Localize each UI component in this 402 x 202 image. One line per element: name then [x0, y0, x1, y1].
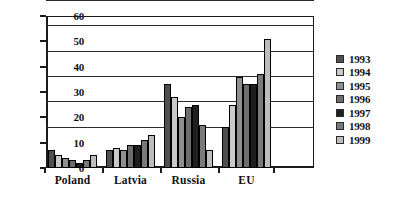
x-axis-tick-mark — [44, 168, 46, 173]
bar — [257, 74, 264, 168]
legend-swatch-icon — [336, 136, 344, 144]
bar — [164, 84, 171, 168]
legend-item[interactable]: 1995 — [336, 79, 400, 92]
bar — [134, 145, 141, 168]
legend-label: 1995 — [349, 80, 370, 92]
bar — [185, 107, 192, 168]
bar-group — [222, 16, 271, 168]
gridline — [46, 0, 314, 1]
bar — [127, 145, 134, 168]
bar — [171, 97, 178, 168]
x-axis-category-label: Latvia — [114, 174, 147, 186]
bar — [229, 105, 236, 168]
bar — [250, 84, 257, 168]
bar-group — [48, 16, 97, 168]
y-axis-tick-mark — [40, 40, 46, 42]
bar — [264, 39, 271, 168]
legend-item[interactable]: 1996 — [336, 93, 400, 106]
x-axis-tick-mark — [160, 168, 162, 173]
x-axis-category-label: Russia — [172, 174, 206, 186]
bar — [141, 140, 148, 168]
bar-group — [106, 16, 155, 168]
x-axis-tick-mark — [218, 168, 220, 173]
bar — [206, 150, 213, 168]
legend-item[interactable]: 1999 — [336, 133, 400, 146]
x-axis-tick-mark — [102, 168, 104, 173]
legend-swatch-icon — [336, 68, 344, 76]
legend-label: 1994 — [349, 66, 370, 78]
y-axis-tick-mark — [40, 15, 46, 17]
legend-swatch-icon — [336, 55, 344, 63]
legend-item[interactable]: 1997 — [336, 106, 400, 119]
x-axis-category-label: Poland — [55, 174, 91, 186]
bar — [113, 148, 120, 168]
bar — [178, 117, 185, 168]
legend-label: 1998 — [349, 120, 370, 132]
bar — [76, 163, 83, 168]
bar — [62, 158, 69, 168]
bar — [106, 150, 113, 168]
legend-item[interactable]: 1993 — [336, 52, 400, 65]
legend-swatch-icon — [336, 122, 344, 130]
legend-label: 1999 — [349, 134, 370, 146]
legend-label: 1997 — [349, 107, 370, 119]
x-axis-tick-mark — [273, 168, 275, 173]
bar — [55, 155, 62, 168]
legend-swatch-icon — [336, 95, 344, 103]
bar — [199, 125, 206, 168]
bar — [48, 150, 55, 168]
bars-layer — [48, 16, 314, 168]
legend-label: 1996 — [349, 93, 370, 105]
bar — [222, 127, 229, 168]
bar — [120, 150, 127, 168]
group-gap — [213, 16, 222, 168]
bar-chart: 0102030405060 PolandLatviaRussiaEU 19931… — [0, 0, 402, 202]
bar — [243, 84, 250, 168]
legend-swatch-icon — [336, 109, 344, 117]
bar — [90, 155, 97, 168]
bar-group — [164, 16, 213, 168]
y-axis-tick-mark — [40, 142, 46, 144]
bar — [148, 135, 155, 168]
legend-item[interactable]: 1998 — [336, 120, 400, 133]
chart-legend: 1993199419951996199719981999 — [336, 52, 400, 147]
group-gap — [155, 16, 164, 168]
bar — [236, 77, 243, 168]
x-axis-category-label: EU — [238, 174, 254, 186]
bar — [83, 160, 90, 168]
group-gap — [97, 16, 106, 168]
y-axis-tick-mark — [40, 116, 46, 118]
y-axis-tick-mark — [40, 91, 46, 93]
bar — [69, 160, 76, 168]
y-axis-tick-mark — [40, 66, 46, 68]
legend-item[interactable]: 1994 — [336, 66, 400, 79]
bar — [192, 105, 199, 168]
legend-swatch-icon — [336, 82, 344, 90]
legend-label: 1993 — [349, 53, 370, 65]
